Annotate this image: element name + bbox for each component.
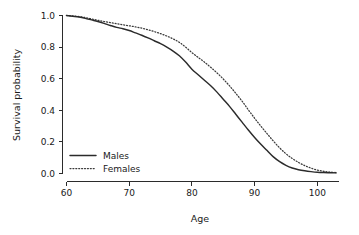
series-line-females <box>67 16 337 173</box>
x-tick-label-100: 100 <box>309 188 326 198</box>
y-tick-label-0.4: 0.4 <box>41 106 56 116</box>
y-tick-label-0.6: 0.6 <box>41 74 56 84</box>
y-tick-label-1.0: 1.0 <box>41 11 56 21</box>
survival-probability-chart: 1.0 0.8 0.6 0.4 0.2 0.0 Survival probabi… <box>0 0 359 235</box>
x-tick-label-70: 70 <box>123 188 135 198</box>
legend-label-males: Males <box>103 151 129 161</box>
legend-label-females: Females <box>103 164 141 174</box>
x-axis: 60 70 80 90 100 Age <box>61 182 339 225</box>
series-line-males <box>67 16 337 173</box>
y-tick-label-0.0: 0.0 <box>41 169 56 179</box>
x-axis-title: Age <box>191 213 210 224</box>
y-tick-label-0.8: 0.8 <box>41 42 56 52</box>
x-axis-tick-labels: 60 70 80 90 100 <box>61 188 326 198</box>
legend: Males Females <box>70 151 141 174</box>
data-series-group <box>67 16 337 173</box>
y-tick-label-0.2: 0.2 <box>41 137 55 147</box>
x-tick-label-60: 60 <box>61 188 73 198</box>
plot-area: 1.0 0.8 0.6 0.4 0.2 0.0 Survival probabi… <box>0 0 359 235</box>
x-tick-label-90: 90 <box>249 188 261 198</box>
y-axis: 1.0 0.8 0.6 0.4 0.2 0.0 Survival probabi… <box>11 11 63 179</box>
y-axis-tick-labels: 1.0 0.8 0.6 0.4 0.2 0.0 <box>41 11 56 179</box>
x-tick-label-80: 80 <box>186 188 198 198</box>
y-axis-ticks <box>59 16 63 174</box>
x-axis-ticks <box>67 182 318 186</box>
y-axis-title: Survival probability <box>11 49 22 141</box>
